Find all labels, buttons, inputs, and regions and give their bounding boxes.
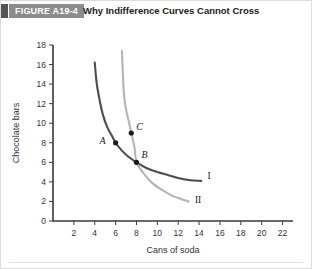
y-tick-label: 6	[41, 157, 46, 167]
badge-accent-bar	[1, 4, 8, 18]
x-tick-label: 10	[153, 228, 163, 238]
point-label-A: A	[98, 135, 106, 146]
y-tick-label: 8	[41, 138, 46, 148]
y-tick-label: 14	[37, 79, 47, 89]
x-tick-label: 16	[215, 228, 225, 238]
y-tick-label: 4	[41, 177, 46, 187]
x-tick-label: 2	[72, 228, 77, 238]
figure-header: FIGURE A19-4 Why Indifference Curves Can…	[1, 1, 312, 23]
axis-lines	[53, 45, 293, 221]
curve-label-II: II	[195, 195, 201, 205]
curve-group: III	[95, 51, 211, 206]
y-tick-label: 12	[37, 99, 47, 109]
curve-I	[95, 63, 201, 181]
figure-title: Why Indifference Curves Cannot Cross	[83, 4, 259, 18]
indifference-curves-chart: 024681012141618 246810121416182022 III A…	[1, 23, 311, 263]
x-tick-label: 14	[194, 228, 204, 238]
x-tick-label: 22	[278, 228, 288, 238]
y-axis-title: Chocolate bars	[11, 102, 21, 163]
x-axis-ticks: 246810121416182022	[72, 221, 288, 238]
point-label-C: C	[136, 121, 143, 132]
figure-container: FIGURE A19-4 Why Indifference Curves Can…	[0, 0, 312, 269]
x-tick-label: 20	[257, 228, 267, 238]
chart-area: 024681012141618 246810121416182022 III A…	[1, 23, 311, 263]
y-axis-ticks: 024681012141618	[37, 40, 53, 226]
x-tick-label: 18	[236, 228, 246, 238]
y-tick-label: 2	[41, 196, 46, 206]
y-tick-label: 16	[37, 60, 47, 70]
axis-path	[53, 45, 293, 221]
y-tick-label: 18	[37, 40, 47, 50]
annotation-points: ABC	[98, 121, 147, 165]
x-tick-label: 6	[113, 228, 118, 238]
footer-divider	[9, 262, 303, 263]
y-tick-label: 10	[37, 118, 47, 128]
figure-number-badge: FIGURE A19-4	[9, 4, 84, 18]
y-tick-label: 0	[41, 216, 46, 226]
point-dot-A	[113, 140, 118, 145]
point-dot-B	[134, 160, 139, 165]
curve-label-I: I	[207, 171, 210, 181]
x-axis-title: Cans of soda	[146, 245, 199, 255]
point-dot-C	[129, 130, 134, 135]
point-label-B: B	[141, 149, 147, 160]
x-tick-label: 4	[92, 228, 97, 238]
x-tick-label: 12	[173, 228, 183, 238]
x-tick-label: 8	[134, 228, 139, 238]
